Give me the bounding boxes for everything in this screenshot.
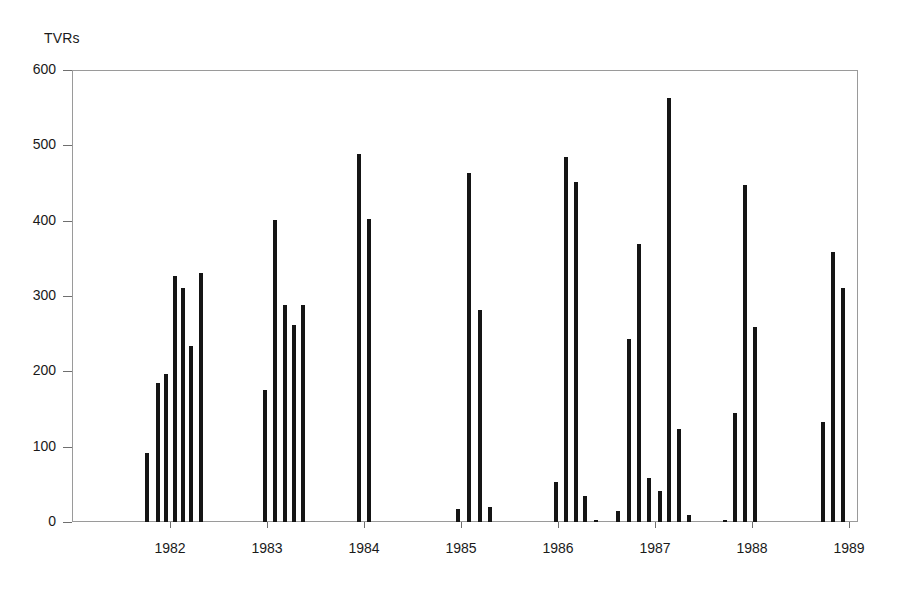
x-tick-label: 1988 [717,540,787,556]
bar [594,520,598,522]
y-tick-mark [63,371,72,372]
x-tick-mark [849,522,850,528]
bar [753,327,757,522]
bar [677,429,681,522]
bar [647,478,651,522]
y-axis-title: TVRs [44,30,80,46]
bar [478,310,482,522]
bar [164,374,168,522]
x-tick-mark [655,522,656,528]
bar [292,325,296,522]
bar [189,346,193,522]
bar [488,507,492,522]
bar [467,173,471,522]
y-tick-label: 0 [8,513,56,529]
chart-root: TVRs 6005004003002001000 198219831984198… [0,0,900,602]
bar [831,252,835,522]
y-tick-mark [63,145,72,146]
bar [181,288,185,522]
x-tick-label: 1984 [329,540,399,556]
bar [357,154,361,522]
x-tick-label: 1983 [232,540,302,556]
bar [145,453,149,522]
x-tick-mark [558,522,559,528]
x-tick-mark [461,522,462,528]
bar [616,511,620,522]
x-tick-mark [267,522,268,528]
bar [687,515,691,522]
x-tick-label: 1986 [523,540,593,556]
bar [743,185,747,522]
bar [574,182,578,523]
bar [273,220,277,522]
y-tick-label: 100 [8,438,56,454]
bar [733,413,737,522]
y-tick-mark [63,447,72,448]
bar [667,98,671,522]
y-tick-label: 500 [8,136,56,152]
x-tick-label: 1987 [620,540,690,556]
y-tick-mark [63,221,72,222]
bar [723,520,727,522]
bar [821,422,825,522]
y-tick-label: 600 [8,61,56,77]
y-tick-label: 300 [8,287,56,303]
y-tick-mark [63,70,72,71]
bar [658,491,662,522]
bar [156,383,160,522]
bar [564,157,568,522]
bar [554,482,558,522]
x-tick-label: 1985 [426,540,496,556]
x-tick-mark [364,522,365,528]
y-tick-mark [63,296,72,297]
bar [199,273,203,522]
bar [301,305,305,522]
bar [283,305,287,522]
bar [263,390,267,522]
x-tick-label: 1982 [135,540,205,556]
y-tick-label: 400 [8,212,56,228]
bar [637,244,641,522]
bar [367,219,371,522]
bar [583,496,587,522]
bar [627,339,631,522]
y-tick-mark [63,522,72,523]
x-tick-mark [752,522,753,528]
x-tick-mark [170,522,171,528]
y-tick-label: 200 [8,362,56,378]
bar [456,509,460,522]
bar [173,276,177,522]
x-tick-label: 1989 [814,540,884,556]
bar-series [72,70,858,522]
bar [841,288,845,522]
